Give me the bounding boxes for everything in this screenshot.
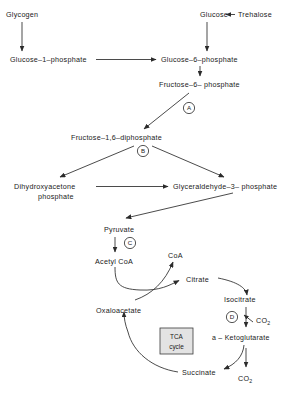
node-glyceraldehyde-3-phosphate: Glyceraldehyde–3– phosphate (173, 182, 277, 191)
enzyme-d-label: D (230, 313, 235, 320)
node-citrate: Citrate (186, 275, 209, 284)
enzyme-a-label: A (187, 104, 192, 111)
arrow-fdp-to-g3p (152, 146, 224, 177)
node-glucose-6-phosphate: Glucose–6–phosphate (161, 55, 238, 64)
arrow-f6p-to-fdp (144, 93, 189, 129)
enzyme-marker-c: C (124, 237, 135, 248)
enzyme-b-label: B (141, 147, 145, 154)
node-pyruvate: Pyruvate (104, 225, 134, 234)
node-fructose-1-6-diphosphate: Fructose–1,6–diphosphate (71, 133, 162, 142)
arrow-fdp-to-dhap (60, 146, 134, 177)
tca-cycle-box-line1: TCA (170, 333, 184, 340)
arrow-g3p-to-pyruvate (126, 193, 233, 218)
node-acetyl-coa: Acetyl CoA (95, 257, 133, 266)
arrow-ketoglutarate-to-succinate (224, 345, 244, 369)
node-dihydroxyacetone-phosphate: Dihydroxyacetone (14, 182, 76, 191)
enzyme-marker-a: A (183, 102, 194, 113)
enzyme-marker-d: D (226, 311, 237, 322)
tca-cycle-box-rect (160, 328, 193, 354)
tca-cycle-box-line2: cycle (169, 343, 184, 351)
node-alpha-ketoglutarate: a – Ketoglutarate (212, 334, 270, 342)
node-oxaloacetate: Oxaloacetate (96, 306, 141, 315)
node-co2-lower: CO2 (238, 374, 252, 384)
node-glycogen: Glycogen (6, 10, 38, 19)
tca-cycle-box: TCA cycle (160, 328, 193, 354)
node-co2-upper: CO2 (256, 316, 270, 326)
node-trehalose: Trehalose (238, 10, 272, 19)
node-glucose-1-phosphate: Glucose–1–phosphate (10, 55, 87, 64)
enzyme-c-label: C (128, 239, 133, 246)
node-succinate: Succinate (182, 368, 216, 377)
enzyme-marker-b: B (137, 145, 148, 156)
node-fructose-6-phosphate: Fructose–6– phosphate (159, 80, 240, 89)
arrow-citrate-to-isocitrate (218, 278, 247, 295)
arrow-oxaloacetate-to-coa (135, 262, 173, 300)
node-isocitrate: Isocitrate (224, 295, 256, 304)
pathway-canvas: Glycogen Glucose Trehalose Glucose–1–pho… (0, 0, 294, 400)
node-glucose: Glucose (200, 10, 228, 19)
node-coa: CoA (168, 251, 183, 260)
node-dihydroxyacetone-phosphate-line2: phosphate (38, 192, 74, 201)
pathway-diagram: Glycogen Glucose Trehalose Glucose–1–pho… (0, 0, 294, 400)
arrow-co2-upper (244, 315, 253, 322)
